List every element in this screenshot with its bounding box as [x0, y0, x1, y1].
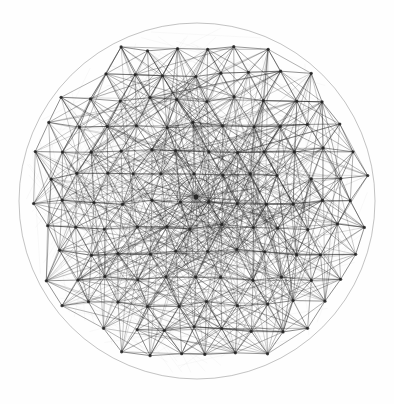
graph-node [106, 125, 109, 128]
graph-node [292, 203, 295, 206]
graph-node [351, 150, 354, 153]
graph-node [267, 48, 270, 51]
graph-node [236, 304, 239, 307]
graph-node [339, 278, 342, 281]
graph-node [165, 225, 168, 228]
graph-node [194, 75, 197, 78]
graph-node [306, 123, 309, 126]
graph-node [106, 172, 109, 175]
graph-node [159, 172, 162, 175]
graph-node [247, 71, 250, 74]
graph-node [193, 325, 196, 328]
graph-node [136, 278, 139, 281]
graph-node [310, 279, 313, 282]
graph-node [76, 278, 79, 281]
graph-node [249, 172, 252, 175]
graph-node [265, 203, 268, 206]
figure-root: Dense circular network graph Hand-drawn … [0, 0, 394, 404]
graph-node [135, 124, 138, 127]
graph-node [221, 174, 224, 177]
graph-node [164, 275, 167, 278]
graph-node [292, 299, 295, 302]
graph-node [295, 100, 298, 103]
graph-node [74, 226, 77, 229]
graph-node [119, 100, 122, 103]
graph-node [232, 45, 235, 48]
graph-node [78, 125, 81, 128]
graph-node [336, 222, 339, 225]
graph-node [90, 254, 93, 257]
graph-node [178, 305, 181, 308]
graph-node [232, 95, 235, 98]
graph-node [295, 253, 298, 256]
graph-node [276, 174, 279, 177]
graph-node [150, 148, 153, 151]
graph-node [219, 72, 222, 75]
graph-node [322, 146, 325, 149]
graph-node [174, 250, 177, 253]
graph-node [103, 275, 106, 278]
graph-node [136, 225, 139, 228]
graph-node [306, 327, 309, 330]
graph-node [87, 300, 90, 303]
graph-node [166, 126, 169, 129]
graph-node [206, 250, 209, 253]
graph-node [219, 276, 222, 279]
graph-node [116, 301, 119, 304]
graph-node [148, 354, 151, 357]
graph-node [236, 202, 239, 205]
graph-node [104, 72, 107, 75]
network-graph-canvas [0, 0, 394, 404]
graph-node [58, 249, 61, 252]
graph-node [175, 98, 178, 101]
graph-node [306, 228, 309, 231]
graph-node [293, 150, 296, 153]
graph-node [266, 303, 269, 306]
graph-node [120, 350, 123, 353]
graph-node [253, 125, 256, 128]
graph-node [363, 226, 366, 229]
graph-node [310, 72, 313, 75]
graph-node [59, 96, 62, 99]
graph-node [236, 151, 239, 154]
graph-node [148, 96, 151, 99]
graph-node [262, 99, 265, 102]
graph-node [120, 149, 123, 152]
graph-node [146, 305, 149, 308]
graph-node [191, 121, 194, 124]
graph-node [263, 250, 266, 253]
graph-node [179, 200, 182, 203]
graph-node [46, 224, 49, 227]
graph-node [192, 172, 195, 175]
graph-node [206, 48, 209, 51]
graph-node [120, 45, 123, 48]
graph-node [161, 74, 164, 77]
graph-node [338, 122, 341, 125]
graph-node [163, 329, 166, 332]
graph-node [276, 227, 279, 230]
graph-node [323, 300, 326, 303]
graph-node [116, 252, 119, 255]
graph-node [180, 352, 183, 355]
graph-node [205, 100, 208, 103]
graph-node [50, 178, 53, 181]
graph-node [310, 177, 313, 180]
graph-node [349, 199, 352, 202]
graph-node [92, 201, 95, 204]
graph-node [60, 304, 63, 307]
graph-node [320, 100, 323, 103]
graph-node [354, 253, 357, 256]
graph-node [280, 276, 283, 279]
graph-node [176, 47, 179, 50]
graph-node [89, 97, 92, 100]
graph-node [194, 276, 197, 279]
graph-node [136, 328, 139, 331]
graph-node [221, 124, 224, 127]
graph-node [32, 202, 35, 205]
graph-node [61, 151, 64, 154]
central-hub-node [194, 195, 199, 200]
graph-node [90, 151, 93, 154]
graph-node [132, 172, 135, 175]
graph-node [234, 351, 237, 354]
graph-node [61, 199, 64, 202]
